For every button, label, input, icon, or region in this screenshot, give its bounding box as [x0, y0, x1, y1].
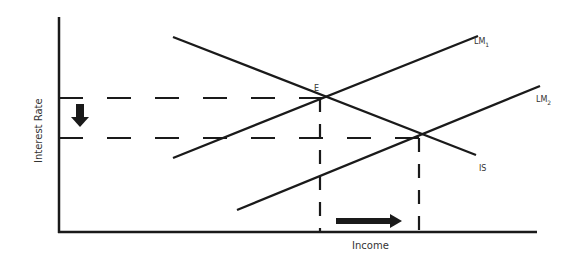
is-lm-diagram: [0, 0, 579, 257]
lm2-curve: [237, 86, 540, 210]
y-axis-label: Interest Rate: [33, 98, 44, 163]
is-label: IS: [479, 164, 486, 173]
right-arrow-icon: [336, 214, 402, 228]
lm1-label: LM1: [474, 37, 489, 48]
lm1-label-text: LM: [474, 37, 485, 46]
lm2-label: LM2: [536, 95, 551, 106]
x-axis-label: Income: [352, 240, 389, 251]
down-arrow-icon: [71, 104, 89, 127]
lm2-label-sub: 2: [547, 99, 551, 106]
lm2-label-text: LM: [536, 95, 547, 104]
point-e-label: E: [314, 84, 319, 93]
lm1-label-sub: 1: [485, 41, 489, 48]
